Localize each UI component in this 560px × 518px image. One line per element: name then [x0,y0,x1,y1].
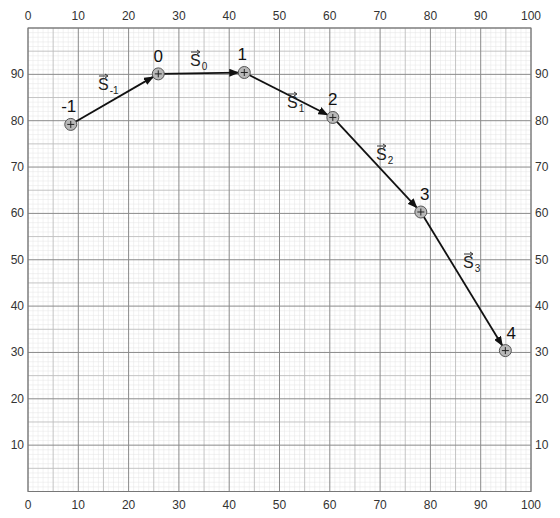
point-marker [152,68,164,80]
trajectory-diagram: 0102030405060708090100 01020304050607080… [0,0,560,518]
y-tick-label: 40 [535,299,549,313]
vector-subscript: 0 [202,61,208,72]
x-tick-label: 80 [424,498,438,512]
vector-name: S2 [376,146,394,166]
vector-subscript: -1 [110,85,119,96]
x-tick-label: 20 [122,498,136,512]
x-tick-label: 60 [323,498,337,512]
x-tick-label: 10 [72,9,86,23]
vector-label: S0 [190,50,208,72]
x-axis-bottom-labels: 0102030405060708090100 [25,498,542,512]
y-axis-left-labels: 102030405060708090 [11,67,25,452]
y-tick-label: 20 [535,392,549,406]
y-tick-label: 50 [11,253,25,267]
y-tick-label: 90 [535,67,549,81]
x-tick-label: 100 [521,9,541,23]
point-label: -1 [61,97,76,116]
point-label: 2 [328,90,337,109]
point-label: 3 [420,185,429,204]
x-tick-label: 100 [521,498,541,512]
y-tick-label: 30 [11,345,25,359]
y-tick-label: 40 [11,299,25,313]
y-tick-label: 70 [535,160,549,174]
x-tick-label: 30 [172,498,186,512]
point-marker [327,111,339,123]
vector-subscript: 1 [299,103,305,114]
x-tick-label: 60 [323,9,337,23]
vector-subscript: 3 [475,263,481,274]
vector-subscript: 2 [388,155,394,166]
vector-label: S1 [287,92,305,114]
point-label: 4 [507,324,516,343]
x-tick-label: 0 [25,498,32,512]
y-tick-label: 30 [535,345,549,359]
y-tick-label: 80 [535,114,549,128]
y-tick-label: 10 [535,438,549,452]
point-label: 0 [154,47,163,66]
y-tick-label: 60 [11,206,25,220]
y-tick-label: 20 [11,392,25,406]
x-tick-label: 40 [223,498,237,512]
point-marker [499,345,511,357]
x-tick-label: 80 [424,9,438,23]
point-marker [65,118,77,130]
trajectory-points: -101234 [61,45,516,356]
x-tick-label: 0 [25,9,32,23]
x-tick-label: 40 [223,9,237,23]
x-tick-label: 90 [474,9,488,23]
y-tick-label: 70 [11,160,25,174]
y-tick-label: 10 [11,438,25,452]
x-tick-label: 90 [474,498,488,512]
vector-label: S-1 [98,74,119,96]
y-tick-label: 90 [11,67,25,81]
x-tick-label: 20 [122,9,136,23]
x-axis-top-labels: 0102030405060708090100 [25,9,542,23]
y-axis-right-labels: 102030405060708090 [535,67,549,452]
vector-label: S2 [376,144,394,166]
x-tick-label: 50 [273,498,287,512]
x-tick-label: 70 [373,498,387,512]
point-marker [238,66,250,78]
x-tick-label: 70 [373,9,387,23]
y-tick-label: 80 [11,114,25,128]
point-label: 1 [238,45,247,64]
y-tick-label: 50 [535,253,549,267]
x-tick-label: 10 [72,498,86,512]
y-tick-label: 60 [535,206,549,220]
x-tick-label: 30 [172,9,186,23]
point-marker [415,206,427,218]
x-tick-label: 50 [273,9,287,23]
vector-arrow [158,73,238,74]
